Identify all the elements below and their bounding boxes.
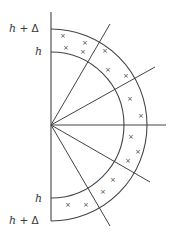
cross-marker: ×: [138, 112, 144, 120]
label-bottom-inner: h: [35, 193, 42, 204]
cross-marker: ×: [80, 48, 86, 56]
label-var: h: [35, 45, 42, 58]
annulus-diagram: × × × × × × × × × × × × × × × ×: [0, 0, 176, 239]
label-var: h: [35, 192, 42, 205]
cross-marker: ×: [123, 72, 129, 80]
cross-marker: ×: [83, 201, 89, 209]
label-top-outer: h + Δ: [9, 23, 39, 34]
cross-marker: ×: [128, 133, 134, 141]
label-rest: + Δ: [16, 22, 39, 34]
cross-marker: ×: [105, 66, 111, 74]
cross-markers: × × × × × × × × × × × × × × × ×: [60, 32, 144, 209]
cross-marker: ×: [82, 39, 88, 47]
cross-marker: ×: [102, 47, 108, 55]
cross-marker: ×: [60, 32, 66, 40]
cross-marker: ×: [110, 176, 116, 184]
label-bottom-outer: h + Δ: [9, 215, 39, 226]
cross-marker: ×: [135, 148, 141, 156]
cross-marker: ×: [63, 44, 69, 52]
radial-line-lower: [51, 125, 110, 226]
label-top-inner: h: [35, 46, 42, 57]
cross-marker: ×: [125, 157, 131, 165]
label-rest: + Δ: [16, 214, 39, 226]
cross-marker: ×: [100, 188, 106, 196]
cross-marker: ×: [65, 201, 71, 209]
cross-marker: ×: [127, 95, 133, 103]
